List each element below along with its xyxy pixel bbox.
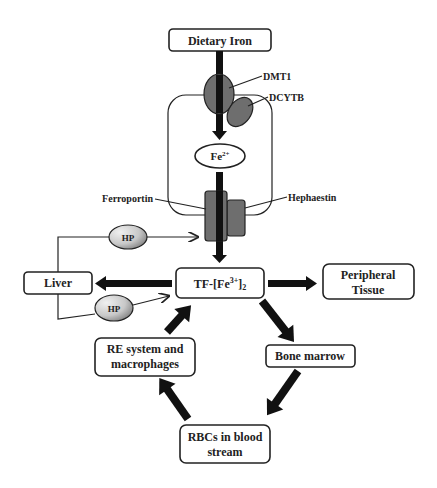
absorption-arrow-head <box>212 131 227 140</box>
rbc-to-re-arrow <box>151 372 196 424</box>
hp-bottom-arrow <box>133 296 169 305</box>
liver-label: Liver <box>44 276 73 290</box>
fe2-superscript: 2+ <box>222 150 230 158</box>
tf-label: TF-[Fe <box>194 277 231 291</box>
hephaestin-protein <box>227 200 245 236</box>
re-to-tf-arrow <box>160 299 199 339</box>
tf-to-liver-arrow <box>95 276 172 291</box>
dietary-iron-node: Dietary Iron <box>169 29 271 51</box>
re-line2: macrophages <box>111 357 179 371</box>
rbc-node: RBCs in blood stream <box>180 425 270 463</box>
dietary-iron-label: Dietary Iron <box>188 34 252 48</box>
transferrin-node: TF-[Fe3+]2 <box>176 268 264 298</box>
ferroportin-leader-line <box>155 199 206 209</box>
fe2-node: Fe2+ <box>195 144 245 168</box>
hephaestin-leader-line <box>245 197 287 208</box>
svg-text:TF-[Fe3+]2: TF-[Fe3+]2 <box>194 276 247 292</box>
rbc-line2: stream <box>207 445 242 459</box>
fe2-label: Fe <box>210 150 222 162</box>
rbc-line1: RBCs in blood <box>188 430 263 444</box>
peripheral-tissue-node: Peripheral Tissue <box>323 264 414 299</box>
re-system-node: RE system and macrophages <box>95 338 195 376</box>
dmt1-label: DMT1 <box>263 71 291 82</box>
iron-metabolism-diagram: Dietary Iron DMT1 DCYTB Fe2+ Hephaestin … <box>0 0 437 488</box>
peripheral-line1: Peripheral <box>341 268 396 282</box>
export-arrow-head <box>212 255 227 263</box>
dmt1-leader-line <box>229 76 262 88</box>
hp-bottom-node: HP <box>95 295 133 321</box>
tf-to-bone-marrow-arrow <box>254 295 302 348</box>
hp-top-label: HP <box>122 233 135 243</box>
dcytb-label: DCYTB <box>269 92 304 103</box>
hp-top-node: HP <box>109 225 147 249</box>
hephaestin-label: Hephaestin <box>288 192 337 203</box>
hp-bottom-path <box>58 294 95 319</box>
ferroportin-label: Ferroportin <box>102 193 153 204</box>
bone-marrow-node: Bone marrow <box>266 345 355 367</box>
hp-bottom-label: HP <box>108 304 121 314</box>
tf-to-peripheral-arrow <box>268 276 317 291</box>
bone-marrow-label: Bone marrow <box>275 349 345 363</box>
liver-node: Liver <box>24 272 92 294</box>
tf-subscript: 2 <box>242 283 246 292</box>
hp-top-path <box>58 237 110 272</box>
bone-marrow-to-rbc-arrow <box>259 365 306 421</box>
peripheral-line2: Tissue <box>352 283 385 297</box>
re-line1: RE system and <box>107 342 184 356</box>
